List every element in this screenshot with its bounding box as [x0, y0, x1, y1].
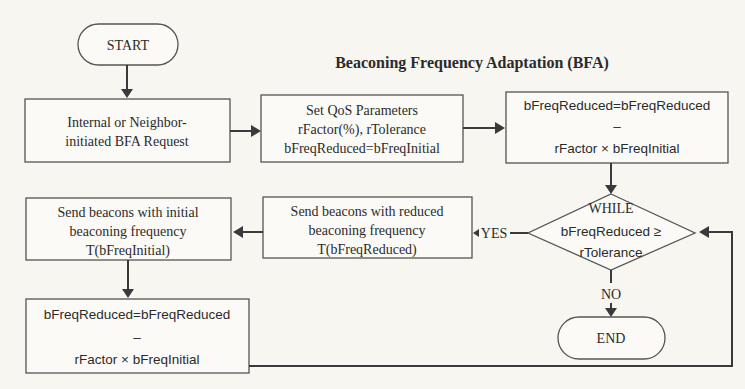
no-label: NO — [601, 287, 621, 302]
arrow-right-icon — [251, 125, 261, 137]
reduce-bottom-line-1: bFreqReduced=bFreqReduced — [44, 307, 231, 322]
arrow-down-icon — [605, 185, 617, 194]
set-qos-line-2: rFactor(%), rTolerance — [298, 122, 426, 138]
diagram-title: Beaconing Frequency Adaptation (BFA) — [335, 54, 609, 72]
reduce-bottom-line-2: – — [133, 330, 141, 345]
set-qos-box: Set QoS Parameters rFactor(%), rToleranc… — [261, 95, 463, 162]
arrow-left-icon — [473, 229, 479, 237]
flowchart-canvas: Beaconing Frequency Adaptation (BFA) STA… — [0, 0, 745, 389]
set-qos-line-1: Set QoS Parameters — [306, 103, 418, 118]
request-line-2: initiated BFA Request — [65, 134, 189, 149]
reduce-top-line-1: bFreqReduced=bFreqReduced — [524, 98, 711, 113]
yes-label: YES — [481, 226, 507, 241]
reduce-bottom-line-3: rFactor × bFreqInitial — [75, 352, 200, 367]
while-line-3: rTolerance — [579, 245, 642, 260]
send-reduced-line-3: T(bFreqReduced) — [317, 242, 417, 258]
arrow-down-icon — [605, 308, 617, 317]
arrow-down-icon — [121, 89, 133, 98]
send-initial-line-2: beaconing frequency — [70, 224, 187, 239]
arrow-down-icon — [122, 289, 134, 298]
start-terminator: START — [78, 24, 178, 65]
send-initial-line-3: T(bFreqInitial) — [86, 243, 170, 259]
send-reduced-line-1: Send beacons with reduced — [291, 204, 444, 219]
while-decision-diamond: WHILE bFreqReduced ≥ rTolerance — [528, 194, 695, 270]
arrow-right-icon — [495, 122, 505, 134]
arrow-left-icon — [699, 226, 709, 238]
set-qos-line-3: bFreqReduced=bFreqInitial — [284, 141, 440, 156]
end-label: END — [597, 331, 626, 346]
reduce-top-line-3: rFactor × bFreqInitial — [555, 141, 680, 156]
arrow-left-icon — [233, 226, 243, 238]
send-initial-line-1: Send beacons with initial — [57, 205, 198, 220]
start-label: START — [107, 38, 150, 53]
while-line-2: bFreqReduced ≥ — [561, 224, 661, 239]
send-reduced-line-2: beaconing frequency — [309, 223, 426, 238]
while-line-1: WHILE — [588, 201, 633, 216]
send-initial-frequency-box: Send beacons with initial beaconing freq… — [26, 198, 231, 260]
send-reduced-frequency-box: Send beacons with reduced beaconing freq… — [263, 197, 472, 258]
reduce-frequency-box-bottom: bFreqReduced=bFreqReduced – rFactor × bF… — [26, 299, 249, 373]
bfa-request-box: Internal or Neighbor- initiated BFA Requ… — [25, 99, 230, 162]
reduce-top-line-2: – — [613, 119, 621, 134]
request-line-1: Internal or Neighbor- — [67, 115, 187, 130]
end-terminator: END — [558, 317, 665, 359]
reduce-frequency-box-top: bFreqReduced=bFreqReduced – rFactor × bF… — [506, 92, 728, 163]
